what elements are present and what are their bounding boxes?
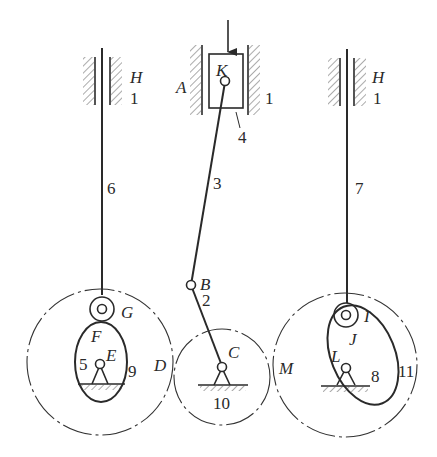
label-4: 4 [238, 128, 247, 147]
label-2: 2 [202, 291, 211, 310]
mechanism-diagram: H 1 6 G F 5 E 9 D K A 1 4 3 B 2 [0, 0, 437, 457]
leader-line-4 [236, 112, 240, 128]
label-C: C [228, 343, 240, 362]
label-3: 3 [213, 174, 222, 193]
left-guide-hatch-outer [83, 57, 94, 105]
slider-pin-K [221, 77, 230, 86]
label-11: 11 [398, 362, 414, 381]
right-cam-8 [314, 295, 412, 415]
label-L: L [330, 347, 340, 366]
label-7: 7 [355, 179, 364, 198]
middle-pivot-C [198, 363, 248, 392]
label-6: 6 [107, 179, 116, 198]
label-A: A [175, 78, 187, 97]
left-roller-pin [98, 305, 107, 314]
label-10: 10 [213, 394, 230, 413]
label-9: 9 [128, 362, 137, 381]
label-M: M [278, 359, 294, 378]
label-5: 5 [79, 355, 88, 374]
left-guide-hatch-inner [111, 57, 122, 105]
label-F: F [90, 327, 102, 346]
middle-guide-hatch-left [190, 45, 201, 115]
right-pivot-L [321, 364, 370, 393]
label-H-right: H [371, 68, 386, 87]
right-guide-hatch-inner [355, 58, 366, 106]
label-E: E [105, 346, 117, 365]
right-roller-pin [342, 311, 351, 320]
label-G: G [121, 303, 133, 322]
joint-B [187, 281, 196, 290]
label-1-left: 1 [130, 89, 139, 108]
middle-guide-hatch-right [249, 45, 260, 115]
label-D: D [153, 356, 167, 375]
label-1-right: 1 [373, 89, 382, 108]
label-1-mid: 1 [265, 89, 274, 108]
label-8: 8 [371, 367, 380, 386]
label-J: J [349, 330, 358, 349]
label-H-left: H [129, 68, 144, 87]
right-guide-hatch-outer [328, 58, 339, 106]
